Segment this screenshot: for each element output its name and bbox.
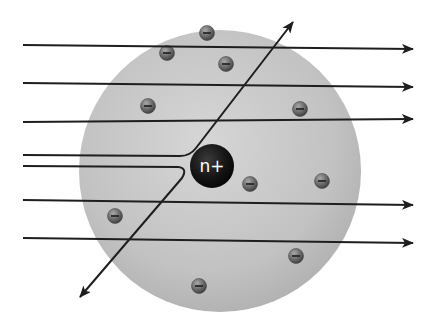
- nucleus-label: n+: [199, 156, 224, 176]
- atom-scattering-diagram: n+: [0, 0, 440, 329]
- electron: [219, 57, 234, 72]
- minus-sign-icon: [111, 215, 119, 217]
- electron: [315, 174, 330, 189]
- electron: [243, 177, 258, 192]
- minus-sign-icon: [195, 285, 203, 287]
- electron: [192, 279, 207, 294]
- nucleus: n+: [190, 144, 234, 188]
- electron: [160, 46, 175, 61]
- electron: [200, 26, 215, 41]
- electron: [289, 249, 304, 264]
- electron: [108, 209, 123, 224]
- diagram-canvas: n+: [0, 0, 440, 329]
- minus-sign-icon: [246, 183, 254, 185]
- minus-sign-icon: [318, 180, 326, 182]
- minus-sign-icon: [222, 63, 230, 65]
- minus-sign-icon: [144, 105, 152, 107]
- minus-sign-icon: [163, 52, 171, 54]
- minus-sign-icon: [296, 108, 304, 110]
- electron: [293, 102, 308, 117]
- minus-sign-icon: [203, 32, 211, 34]
- electron: [141, 99, 156, 114]
- minus-sign-icon: [292, 255, 300, 257]
